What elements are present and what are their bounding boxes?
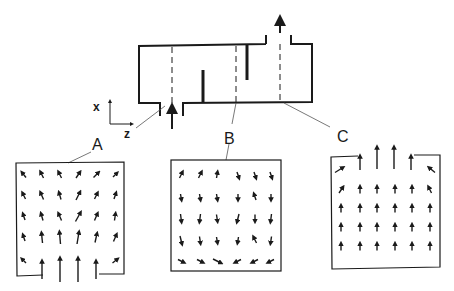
vector-arrow-icon (41, 193, 44, 200)
vector-arrow-icon (41, 172, 44, 178)
vector-arrow-icon (178, 260, 184, 263)
vector-arrow-icon (254, 194, 256, 200)
section-label-b: B (224, 130, 235, 147)
x-axis-label: x (93, 100, 100, 114)
z-axis-label: z (124, 127, 130, 141)
section-a-vectors (22, 172, 118, 282)
vector-arrow-icon (268, 260, 274, 263)
vector-arrow-icon (217, 172, 218, 178)
section-a-panel (16, 162, 124, 282)
vector-arrow-icon (76, 213, 81, 222)
vector-arrow-icon (238, 237, 239, 243)
vector-arrow-icon (42, 233, 43, 243)
vector-arrow-icon (113, 173, 117, 177)
flow-diagram: x z A B C (0, 0, 454, 291)
vector-arrow-icon (59, 193, 61, 200)
vector-arrow-icon (199, 172, 202, 178)
vector-arrow-icon (429, 187, 432, 193)
vector-arrow-icon (114, 235, 117, 242)
vector-arrow-icon (115, 214, 116, 221)
vector-arrow-icon (114, 193, 116, 199)
section-lines (172, 44, 280, 103)
vector-arrow-icon (270, 172, 272, 178)
vector-arrow-icon (59, 214, 62, 221)
vector-arrow-icon (429, 168, 435, 173)
section-c-panel (331, 147, 440, 269)
vector-arrow-icon (95, 234, 97, 243)
section-b-panel (171, 160, 281, 271)
vector-arrow-icon (59, 172, 62, 178)
vector-arrow-icon (94, 173, 99, 178)
vector-arrow-icon (200, 194, 201, 200)
leader-c (284, 103, 330, 127)
vector-arrow-icon (217, 215, 218, 222)
section-c-vectors (335, 147, 435, 251)
leader-b-upper (232, 103, 236, 124)
section-a-outline (16, 162, 124, 276)
vector-arrow-icon (180, 236, 182, 244)
vector-arrow-icon (60, 232, 61, 244)
vector-arrow-icon (77, 232, 79, 244)
vector-arrow-icon (217, 237, 218, 243)
vector-arrow-icon (335, 168, 343, 173)
section-b-vectors (178, 172, 274, 263)
vector-arrow-icon (237, 214, 239, 222)
vector-arrow-icon (181, 214, 182, 222)
vector-arrow-icon (235, 260, 241, 263)
vector-arrow-icon (197, 260, 203, 263)
leader-a-upper (136, 106, 165, 128)
vector-arrow-icon (339, 187, 343, 193)
vector-arrow-icon (213, 259, 221, 263)
vector-arrow-icon (95, 193, 98, 199)
vector-arrow-icon (200, 237, 201, 244)
vector-arrow-icon (41, 214, 43, 221)
vector-arrow-icon (181, 194, 182, 200)
vector-arrow-icon (23, 235, 25, 241)
axes (110, 101, 132, 124)
section-label-a: A (92, 136, 103, 153)
vector-arrow-icon (271, 214, 272, 222)
section-b-outline (171, 160, 281, 271)
vector-arrow-icon (113, 259, 118, 263)
vector-arrow-icon (22, 173, 26, 178)
section-label-c: C (337, 128, 349, 145)
vector-arrow-icon (217, 194, 218, 200)
vector-arrow-icon (23, 193, 26, 199)
vector-arrow-icon (252, 260, 258, 263)
vector-arrow-icon (200, 214, 201, 222)
vector-arrow-icon (271, 237, 272, 244)
section-c-outline (331, 155, 440, 269)
vector-arrow-icon (22, 259, 26, 263)
vector-arrow-icon (237, 172, 239, 178)
vector-arrow-icon (254, 237, 257, 243)
vector-arrow-icon (95, 214, 98, 221)
leader-a-lower (68, 152, 91, 163)
leader-lines (68, 103, 330, 163)
vector-arrow-icon (254, 172, 256, 178)
vector-arrow-icon (76, 172, 80, 178)
vector-arrow-icon (180, 172, 183, 178)
vector-arrow-icon (76, 192, 80, 200)
vector-arrow-icon (23, 214, 25, 220)
